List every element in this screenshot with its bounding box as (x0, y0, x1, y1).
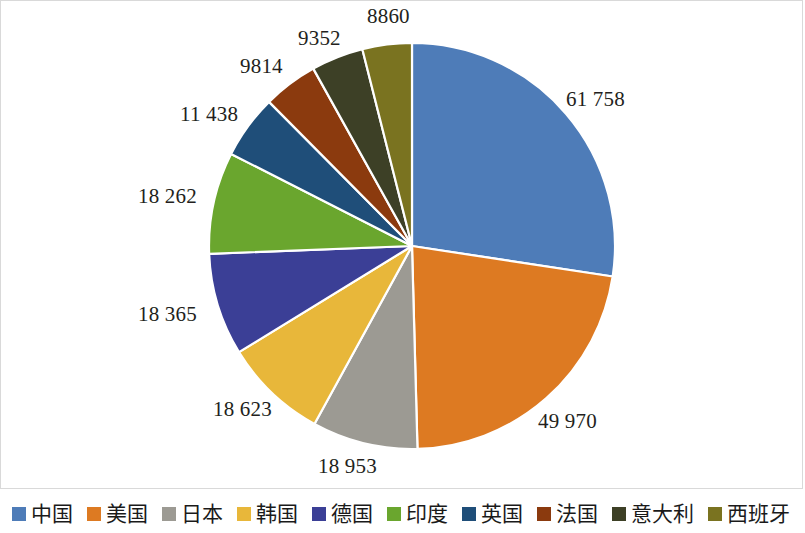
legend-item[interactable]: 韩国 (237, 504, 298, 525)
legend-item[interactable]: 日本 (162, 504, 223, 525)
legend-swatch-icon (87, 507, 101, 521)
legend-item-label: 韩国 (256, 504, 298, 525)
legend-item[interactable]: 美国 (87, 504, 148, 525)
pie-data-label: 11 438 (180, 104, 238, 125)
legend-item-label: 意大利 (631, 504, 694, 525)
pie-data-label: 18 623 (213, 399, 272, 420)
legend-item-label: 中国 (31, 504, 73, 525)
legend-item[interactable]: 印度 (387, 504, 448, 525)
pie-data-label: 18 953 (318, 456, 377, 477)
pie-data-label: 9814 (240, 56, 283, 77)
legend-swatch-icon (537, 507, 551, 521)
pie-chart: 中国 61 758美国 49 970日本 18 953韩国 18 623德国 1… (208, 42, 616, 450)
pie-chart-page: 中国 61 758美国 49 970日本 18 953韩国 18 623德国 1… (0, 0, 805, 533)
legend-swatch-icon (387, 507, 401, 521)
legend-item[interactable]: 西班牙 (708, 504, 790, 525)
legend-item-label: 美国 (106, 504, 148, 525)
pie-data-label: 9352 (298, 28, 341, 49)
legend-item[interactable]: 中国 (12, 504, 73, 525)
legend-item-label: 印度 (406, 504, 448, 525)
chart-legend: 中国美国日本韩国德国印度英国法国意大利西班牙 (0, 495, 805, 533)
legend-item[interactable]: 意大利 (612, 504, 694, 525)
pie-slice[interactable]: 中国 61 758 (412, 43, 615, 276)
legend-swatch-icon (462, 507, 476, 521)
legend-item-label: 日本 (181, 504, 223, 525)
legend-item-label: 德国 (331, 504, 373, 525)
pie-data-label: 18 365 (138, 304, 197, 325)
legend-item[interactable]: 德国 (312, 504, 373, 525)
legend-item-label: 法国 (556, 504, 598, 525)
pie-svg: 中国 61 758美国 49 970日本 18 953韩国 18 623德国 1… (208, 42, 616, 450)
legend-swatch-icon (162, 507, 176, 521)
legend-swatch-icon (237, 507, 251, 521)
pie-data-label: 8860 (367, 6, 410, 27)
legend-item-label: 英国 (481, 504, 523, 525)
legend-swatch-icon (12, 507, 26, 521)
legend-swatch-icon (708, 507, 722, 521)
legend-swatch-icon (312, 507, 326, 521)
pie-data-label: 49 970 (538, 411, 597, 432)
pie-data-label: 18 262 (138, 186, 197, 207)
legend-swatch-icon (612, 507, 626, 521)
legend-item[interactable]: 法国 (537, 504, 598, 525)
pie-data-label: 61 758 (566, 89, 625, 110)
legend-item[interactable]: 英国 (462, 504, 523, 525)
legend-item-label: 西班牙 (727, 504, 790, 525)
pie-slice-group: 中国 61 758美国 49 970日本 18 953韩国 18 623德国 1… (209, 43, 615, 449)
